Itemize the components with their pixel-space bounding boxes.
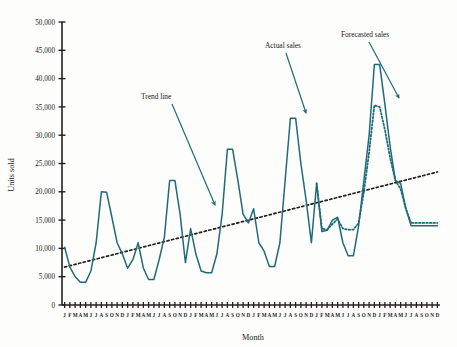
chart-page: 05,00010,00015,00020,00025,00030,00035,0… [0, 0, 457, 347]
x-tick-label: O [173, 312, 177, 318]
x-tick-label: A [415, 312, 419, 318]
x-tick-label: M [146, 312, 151, 318]
y-axis-title: Units sold [7, 158, 16, 191]
x-tick-label: A [100, 312, 104, 318]
x-tick-label: M [272, 312, 277, 318]
annotation-label: Forecasted sales [341, 30, 389, 39]
x-tick-label: F [257, 312, 260, 318]
x-tick-label: J [153, 312, 156, 318]
x-tick-label: J [221, 312, 224, 318]
x-tick-label: D [373, 312, 377, 318]
y-tick-label: 5,000 [39, 273, 56, 281]
x-tick-label: J [342, 312, 345, 318]
x-tick-label: O [362, 312, 366, 318]
x-tick-label: D [247, 312, 251, 318]
x-tick-label: M [136, 312, 141, 318]
x-tick-label: F [131, 312, 134, 318]
x-tick-label: A [394, 312, 398, 318]
annotation-label: Trend line [141, 92, 172, 101]
x-tick-label: S [357, 312, 360, 318]
x-tick-label: N [115, 312, 119, 318]
x-tick-label: M [262, 312, 267, 318]
x-tick-label: S [420, 312, 423, 318]
sales-chart: 05,00010,00015,00020,00025,00030,00035,0… [0, 0, 457, 347]
x-tick-label: A [352, 312, 356, 318]
y-tick-label: 0 [51, 302, 55, 310]
x-tick-label: J [126, 312, 129, 318]
x-tick-label: M [325, 312, 330, 318]
x-tick-label: N [367, 312, 371, 318]
x-tick-label: M [398, 312, 403, 318]
x-tick-label: A [205, 312, 209, 318]
x-tick-label: J [63, 312, 66, 318]
x-tick-label: S [294, 312, 297, 318]
x-tick-label: M [388, 312, 393, 318]
x-tick-label: N [241, 312, 245, 318]
x-tick-label: O [425, 312, 429, 318]
x-tick-label: D [121, 312, 125, 318]
x-tick-label: N [304, 312, 308, 318]
x-tick-label: D [436, 312, 440, 318]
y-tick-label: 50,000 [35, 19, 55, 27]
x-tick-label: O [299, 312, 303, 318]
x-tick-label: J [284, 312, 287, 318]
x-tick-label: A [289, 312, 293, 318]
x-axis-title: Month [242, 333, 264, 342]
x-tick-label: M [335, 312, 340, 318]
x-tick-label: M [199, 312, 204, 318]
x-tick-label: D [184, 312, 188, 318]
x-tick-label: J [95, 312, 98, 318]
x-tick-label: J [158, 312, 161, 318]
x-tick-label: J [405, 312, 408, 318]
y-tick-label: 45,000 [35, 47, 55, 55]
x-tick-label: A [268, 312, 272, 318]
y-tick-label: 10,000 [35, 245, 55, 253]
x-tick-label: J [189, 312, 192, 318]
x-tick-label: A [163, 312, 167, 318]
x-tick-label: D [310, 312, 314, 318]
x-tick-label: A [226, 312, 230, 318]
x-tick-label: M [83, 312, 88, 318]
x-tick-label: J [410, 312, 413, 318]
x-tick-label: O [110, 312, 114, 318]
x-tick-label: S [168, 312, 171, 318]
x-tick-label: J [315, 312, 318, 318]
x-tick-label: F [320, 312, 323, 318]
y-tick-label: 40,000 [35, 75, 55, 83]
y-tick-label: 15,000 [35, 217, 55, 225]
y-tick-label: 30,000 [35, 132, 55, 140]
x-tick-label: A [142, 312, 146, 318]
x-tick-label: M [209, 312, 214, 318]
x-tick-label: J [279, 312, 282, 318]
y-tick-label: 25,000 [35, 160, 55, 168]
x-tick-label: J [378, 312, 381, 318]
x-tick-label: J [216, 312, 219, 318]
x-tick-label: S [105, 312, 108, 318]
y-tick-label: 35,000 [35, 104, 55, 112]
x-tick-label: F [194, 312, 197, 318]
annotation-label: Actual sales [265, 41, 301, 50]
x-tick-label: J [252, 312, 255, 318]
chart-background [0, 0, 457, 347]
x-tick-label: A [331, 312, 335, 318]
y-tick-label: 20,000 [35, 188, 55, 196]
x-tick-label: A [79, 312, 83, 318]
x-tick-label: J [347, 312, 350, 318]
x-tick-label: O [236, 312, 240, 318]
x-tick-label: J [90, 312, 93, 318]
x-tick-label: S [231, 312, 234, 318]
x-tick-label: M [73, 312, 78, 318]
x-tick-label: F [68, 312, 71, 318]
x-tick-label: N [178, 312, 182, 318]
x-tick-label: N [430, 312, 434, 318]
x-tick-label: F [383, 312, 386, 318]
